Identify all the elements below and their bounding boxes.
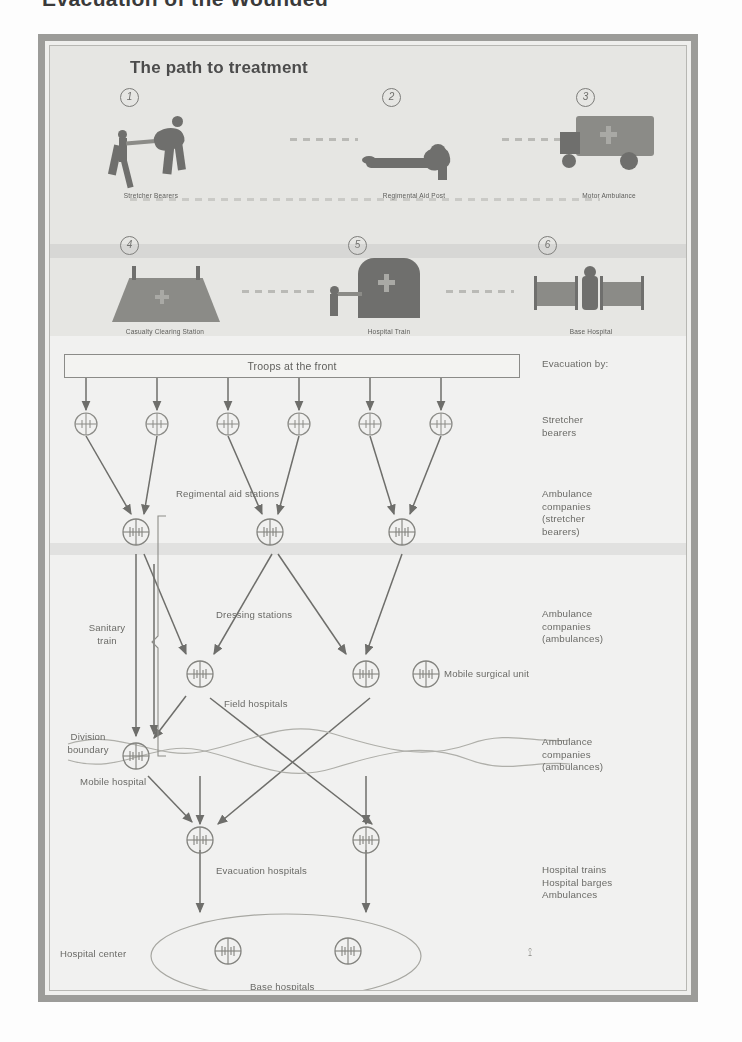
step-number-6: 6	[538, 236, 557, 255]
label-division-boundary: Division boundary	[50, 731, 126, 756]
flow-arrow-1-2	[290, 138, 358, 141]
evacuation-flow-diagram: Troops at the front	[50, 336, 686, 990]
figure-inner: The path to treatment 1 Stretcher Bearer…	[49, 45, 687, 991]
label-base-hospitals: Base hospitals	[250, 981, 315, 991]
right-label-ambulance-companies-ambulances: Ambulance companies (ambulances)	[542, 608, 603, 646]
step-number-3: 3	[576, 88, 595, 107]
step-number-2: 2	[382, 88, 401, 107]
label-evacuation-hospitals: Evacuation hospitals	[216, 865, 307, 878]
label-field-hospitals: Field hospitals	[224, 698, 288, 711]
step-number-4: 4	[120, 236, 139, 255]
node-regimental-aid-stations	[123, 519, 415, 545]
flow-arrow-4-5	[242, 290, 320, 293]
troops-at-front-box: Troops at the front	[64, 354, 520, 378]
division-boundary-line-2	[68, 748, 570, 773]
label-dressing-stations: Dressing stations	[216, 609, 292, 622]
scan-smudge: ⟟	[528, 946, 532, 959]
photo-panel-heading: The path to treatment	[130, 58, 308, 78]
right-label-evacuation-by: Evacuation by:	[542, 358, 608, 371]
figure-frame: The path to treatment 1 Stretcher Bearer…	[38, 34, 698, 1002]
page-title: Evacuation of the Wounded	[42, 0, 328, 11]
troops-at-front-label: Troops at the front	[65, 355, 519, 377]
node-base-hospitals	[215, 938, 361, 964]
flow-arrow-3-4	[130, 198, 600, 201]
label-sanitary-train: Sanitary train	[76, 622, 138, 647]
label-hospital-center: Hospital center	[60, 948, 126, 961]
node-mobile-hospital	[123, 743, 149, 769]
right-label-stretcher-bearers: Stretcher bearers	[542, 414, 583, 439]
step-number-5: 5	[348, 236, 367, 255]
label-regimental-aid-stations: Regimental aid stations	[176, 488, 279, 501]
step-number-1: 1	[120, 88, 139, 107]
node-evacuation-hospitals	[187, 827, 379, 853]
step-caption-4: Casualty Clearing Station	[106, 328, 224, 335]
label-mobile-surgical-unit: Mobile surgical unit	[444, 668, 529, 681]
label-mobile-hospital: Mobile hospital	[80, 776, 146, 789]
flow-arrow-5-6	[446, 290, 514, 293]
flow-arrow-2-3	[502, 138, 564, 141]
node-stretcher-bearer-row	[75, 413, 452, 435]
right-label-ambulance-companies-stretcher: Ambulance companies (stretcher bearers)	[542, 488, 592, 538]
photo-panel: The path to treatment 1 Stretcher Bearer…	[50, 46, 686, 336]
step-caption-6: Base Hospital	[558, 328, 624, 335]
node-dressing-stations	[187, 661, 439, 687]
right-label-ambulance-companies-ambulances-2: Ambulance companies (ambulances)	[542, 736, 603, 774]
hospital-center-ellipse	[151, 914, 421, 991]
right-label-hospital-transport: Hospital trains Hospital barges Ambulanc…	[542, 864, 612, 902]
step-caption-5: Hospital Train	[350, 328, 428, 335]
